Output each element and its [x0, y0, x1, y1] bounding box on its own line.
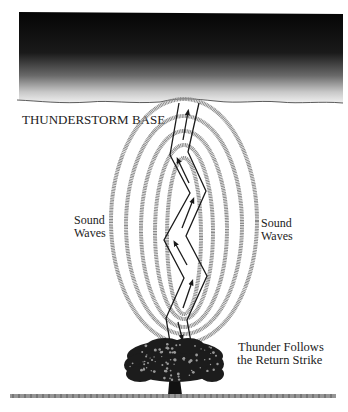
left-sound-waves-label-line2: Waves: [74, 226, 106, 240]
canopy-highlight: [195, 354, 198, 357]
cloud-body: [19, 12, 343, 103]
canopy-highlight: [210, 347, 212, 349]
canopy-highlight: [169, 378, 171, 380]
canopy-highlight: [196, 359, 198, 361]
canopy-highlight: [143, 361, 144, 362]
canopy-highlight: [143, 363, 145, 365]
canopy-highlight: [145, 344, 148, 347]
canopy-highlight: [165, 362, 167, 364]
canopy-foliage: [200, 366, 224, 382]
canopy-highlight: [161, 364, 163, 366]
canopy-highlight: [216, 363, 218, 365]
bolt-right-edge: [186, 103, 207, 342]
canopy-highlight: [215, 355, 217, 357]
canopy-highlight: [150, 357, 151, 358]
canopy-highlight: [169, 351, 171, 353]
canopy-highlight: [164, 370, 167, 373]
canopy-highlight: [213, 369, 215, 371]
canopy-highlight: [155, 361, 156, 362]
canopy-highlight: [166, 343, 169, 346]
canopy-highlight: [147, 362, 149, 364]
canopy-highlight: [209, 358, 211, 360]
right-sound-waves-label-line1: Sound: [261, 216, 292, 230]
sound-wave-ring: [141, 131, 227, 327]
canopy-highlight: [179, 344, 181, 346]
canopy-highlight: [160, 351, 163, 354]
canopy-highlight: [158, 348, 161, 351]
canopy-highlight: [144, 361, 146, 363]
canopy-highlight: [178, 378, 180, 380]
canopy-highlight: [153, 356, 154, 357]
canopy-highlight: [171, 379, 173, 381]
thunder-caption-line1: Thunder Follows: [238, 340, 324, 354]
right-sound-waves-label-line2: Waves: [261, 229, 293, 243]
canopy-highlight: [146, 367, 148, 369]
canopy-highlight: [200, 348, 201, 349]
canopy-highlight: [151, 370, 152, 371]
canopy-highlight: [194, 345, 196, 347]
canopy-highlight: [175, 344, 177, 346]
canopy-highlight: [146, 354, 147, 355]
sound-wave-ring: [126, 116, 242, 334]
canopy-highlight: [204, 359, 205, 360]
canopy-highlight: [190, 359, 193, 362]
canopy-highlight: [173, 351, 175, 353]
canopy-foliage: [126, 366, 154, 382]
canopy-highlight: [166, 367, 168, 369]
canopy-highlight: [141, 351, 143, 353]
canopy-highlight: [163, 377, 166, 380]
tree: [124, 338, 224, 395]
canopy-highlight: [183, 357, 186, 360]
canopy-highlight: [191, 370, 193, 372]
canopy-highlight: [178, 376, 180, 378]
canopy-highlight: [209, 346, 210, 347]
canopy-highlight: [210, 353, 211, 354]
thunder-diagram: THUNDERSTORM BASE Sound Waves Sound Wave…: [0, 0, 348, 412]
canopy-highlight: [129, 366, 130, 367]
tree-canopy: [124, 338, 224, 382]
canopy-highlight: [212, 351, 215, 354]
canopy-highlight: [174, 359, 177, 362]
canopy-highlight: [166, 346, 168, 348]
canopy-highlight: [154, 349, 157, 352]
canopy-highlight: [143, 368, 145, 370]
canopy-highlight: [171, 347, 174, 350]
ground-line: [10, 394, 336, 398]
up-arrow-4: [175, 243, 187, 265]
canopy-highlight: [204, 350, 205, 351]
canopy-highlight: [161, 356, 162, 357]
canopy-highlight: [145, 355, 147, 357]
canopy-highlight: [170, 374, 172, 376]
canopy-highlight: [170, 370, 172, 372]
canopy-highlight: [189, 375, 191, 377]
canopy-highlight: [170, 359, 172, 361]
canopy-highlight: [151, 359, 153, 361]
canopy-highlight: [177, 373, 180, 376]
canopy-highlight: [200, 367, 201, 368]
left-sound-waves-label-line1: Sound: [74, 213, 105, 227]
canopy-highlight: [210, 364, 211, 365]
canopy-highlight: [132, 362, 134, 364]
canopy-highlight: [140, 369, 143, 372]
canopy-highlight: [173, 364, 174, 365]
thunder-caption-line2: the Return Strike: [237, 353, 323, 367]
canopy-highlight: [206, 370, 208, 372]
thunderstorm-cloud: [17, 12, 343, 103]
canopy-highlight: [153, 370, 156, 373]
canopy-highlight: [192, 371, 195, 374]
